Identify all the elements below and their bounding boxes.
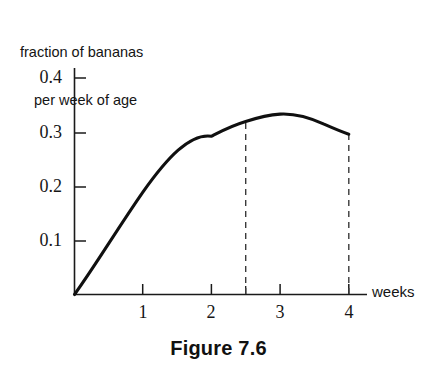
x-tick-label-3: 3 xyxy=(268,302,292,323)
x-tick-label-4: 4 xyxy=(337,302,361,323)
y-tick-label-0.1: 0.1 xyxy=(18,230,62,251)
x-tick-label-1: 1 xyxy=(131,302,155,323)
y-tick-label-0.4: 0.4 xyxy=(18,67,62,88)
x-axis-title: weeks xyxy=(372,283,415,300)
y-tick-label-0.2: 0.2 xyxy=(18,176,62,197)
y-tick-label-0.3: 0.3 xyxy=(18,122,62,143)
x-tick-label-2: 2 xyxy=(199,302,223,323)
figure-container: fraction of bananas per week of age 0.4 … xyxy=(0,0,437,369)
data-curve-fraction-of-bananas xyxy=(75,114,349,294)
figure-caption: Figure 7.6 xyxy=(0,337,437,360)
